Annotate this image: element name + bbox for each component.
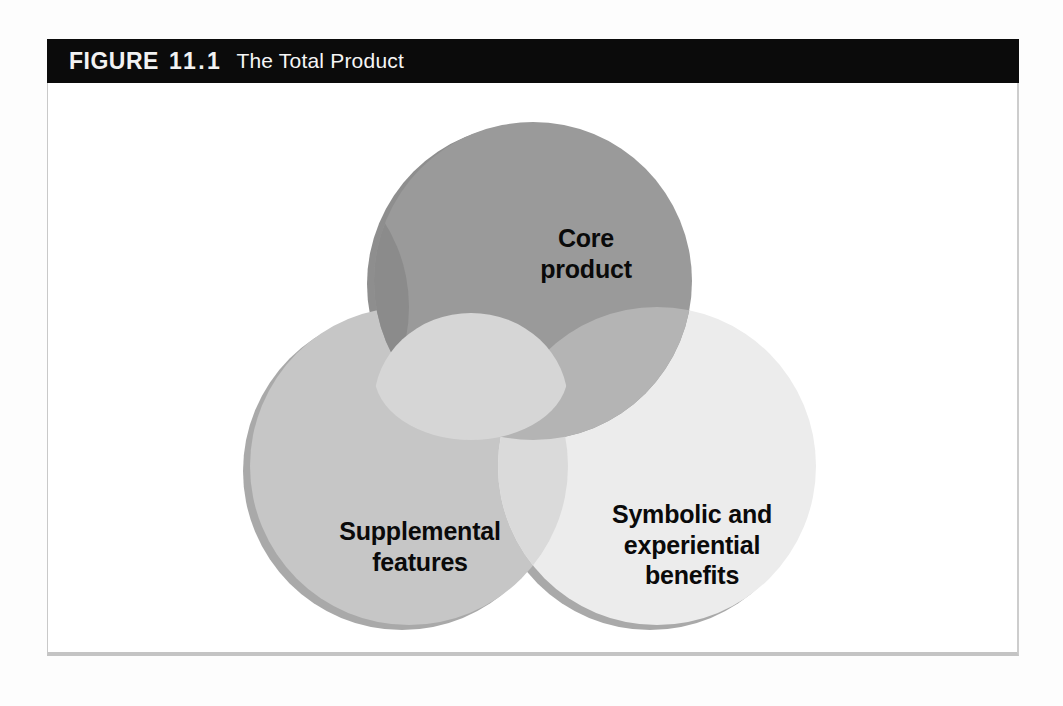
core-product-label: Core product bbox=[471, 223, 701, 284]
symbolic-benefits-label: Symbolic and experiential benefits bbox=[567, 499, 817, 591]
venn-diagram: Core product Supplemental features Symbo… bbox=[47, 83, 1019, 653]
caption-figure-number: 11.1 bbox=[169, 48, 223, 75]
page-background: FIGURE 11.1 The Total Product Core produ… bbox=[0, 0, 1063, 706]
caption-figure-title: The Total Product bbox=[236, 49, 404, 73]
supplemental-features-label: Supplemental features bbox=[295, 516, 545, 577]
figure-caption-bar: FIGURE 11.1 The Total Product bbox=[47, 39, 1019, 83]
caption-figure-word: FIGURE bbox=[69, 48, 159, 75]
